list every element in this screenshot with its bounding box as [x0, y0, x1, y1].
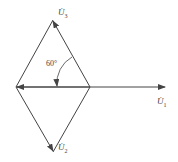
- phasor-diagram: [0, 0, 178, 162]
- u1-label: U̇1: [157, 97, 167, 108]
- angle-label: 60°: [46, 60, 57, 68]
- u3-label: U̇3: [58, 8, 68, 19]
- rhombus-edge-top-left: [16, 20, 53, 87]
- angle-arc: [57, 57, 72, 86]
- u3-phasor: [53, 21, 90, 87]
- u2-label: U̇2: [58, 143, 68, 154]
- u2-phasor: [16, 87, 53, 151]
